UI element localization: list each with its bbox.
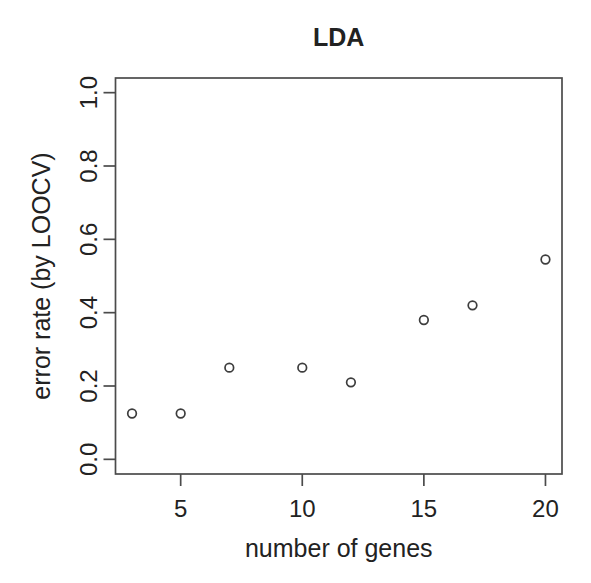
data-point — [468, 301, 477, 310]
lda-scatter-figure: 5101520 0.00.20.40.60.81.0 LDA number of… — [0, 0, 591, 583]
y-tick-label: 0.2 — [75, 369, 102, 402]
x-tick-label: 20 — [532, 495, 559, 522]
y-tick-label: 0.6 — [75, 223, 102, 256]
y-axis-label: error rate (by LOOCV) — [27, 152, 55, 399]
data-point — [420, 316, 429, 325]
y-tick-label: 0.0 — [75, 443, 102, 476]
x-tick-label: 5 — [174, 495, 187, 522]
x-axis-label: number of genes — [245, 534, 433, 562]
data-point — [176, 409, 185, 418]
data-point — [298, 363, 307, 372]
y-tick-label: 1.0 — [75, 76, 102, 109]
y-tick-label: 0.8 — [75, 149, 102, 182]
y-tick-label: 0.4 — [75, 296, 102, 329]
data-point — [225, 363, 234, 372]
chart-title: LDA — [313, 23, 364, 51]
data-point — [347, 378, 356, 387]
data-point — [541, 255, 550, 264]
x-axis-ticks: 5101520 — [174, 474, 559, 522]
x-tick-label: 15 — [411, 495, 438, 522]
data-points — [128, 255, 550, 418]
x-tick-label: 10 — [289, 495, 316, 522]
lda-scatter-chart: 5101520 0.00.20.40.60.81.0 LDA number of… — [0, 0, 591, 583]
data-point — [128, 409, 137, 418]
y-axis-ticks: 0.00.20.40.60.81.0 — [75, 76, 116, 476]
plot-box — [116, 78, 563, 474]
